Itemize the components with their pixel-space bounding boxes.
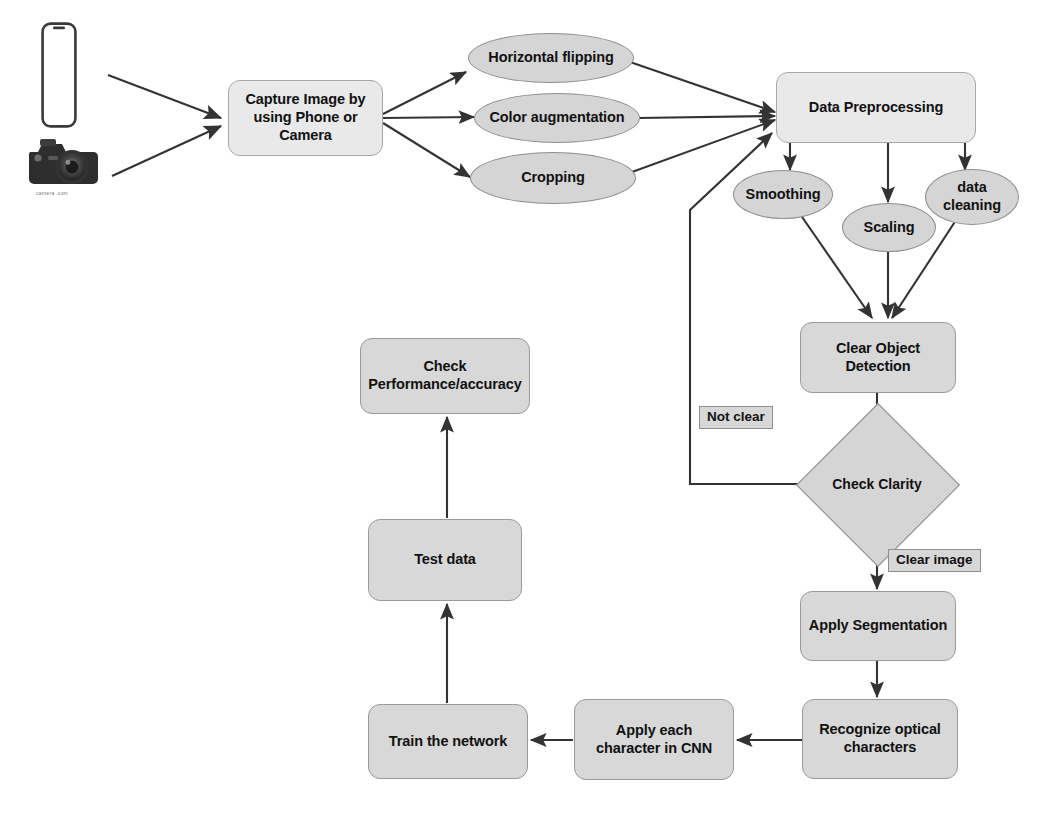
node-data-preprocessing[interactable]: Data Preprocessing (776, 72, 976, 143)
flowchart-canvas: camera .com Capture Image by using Phone… (0, 0, 1047, 814)
node-check-clarity[interactable]: Check Clarity (820, 427, 934, 541)
node-smoothing[interactable]: Smoothing (733, 170, 833, 219)
node-color-augmentation[interactable]: Color augmentation (474, 93, 640, 143)
node-check-performance-accuracy[interactable]: Check Performance/accuracy (360, 338, 530, 414)
node-data-cleaning[interactable]: data cleaning (925, 169, 1019, 225)
node-clear-object-detection[interactable]: Clear Object Detection (800, 322, 956, 393)
node-scaling[interactable]: Scaling (842, 203, 936, 252)
node-train-the-network[interactable]: Train the network (368, 704, 528, 779)
node-cropping[interactable]: Cropping (470, 152, 636, 204)
edge-label-not-clear: Not clear (699, 406, 773, 429)
check-clarity-label: Check Clarity (806, 427, 948, 541)
node-apply-each-character-in-cnn[interactable]: Apply each character in CNN (574, 699, 734, 780)
node-capture-image[interactable]: Capture Image by using Phone or Camera (228, 80, 383, 156)
edge-label-clear-image: Clear image (888, 549, 981, 572)
node-horizontal-flipping[interactable]: Horizontal flipping (468, 33, 634, 83)
node-apply-segmentation[interactable]: Apply Segmentation (800, 591, 956, 661)
camera-icon-caption: camera .com (36, 190, 68, 196)
node-recognize-optical-characters[interactable]: Recognize optical characters (802, 699, 958, 779)
smartphone-icon (41, 22, 77, 128)
dslr-camera-icon (26, 134, 100, 188)
node-test-data[interactable]: Test data (368, 519, 522, 601)
